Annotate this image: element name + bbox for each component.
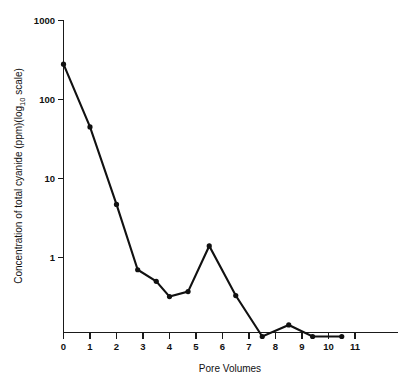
x-tick-label-3: 3 (140, 341, 145, 352)
y-tick-label-1000: 1000 (34, 15, 55, 26)
y-tick-label-10: 10 (44, 173, 55, 184)
x-tick-label-4: 4 (167, 341, 173, 352)
y-axis-title-tail: scale) (13, 68, 24, 97)
y-axis-title-subscript: 10 (18, 98, 27, 106)
y-axis-tick-labels: 1000 100 10 1 (34, 15, 56, 263)
data-point (233, 293, 238, 298)
data-point (167, 294, 172, 299)
line-chart: 1000 100 10 1 0 1 2 3 4 5 (0, 0, 412, 384)
x-tick-label-10: 10 (323, 341, 334, 352)
chart-figure: 1000 100 10 1 0 1 2 3 4 5 (0, 0, 412, 384)
x-tick-label-7: 7 (246, 341, 251, 352)
series-markers-total-cyanide (61, 62, 344, 340)
series-line-total-cyanide (64, 64, 342, 336)
x-tick-label-9: 9 (299, 341, 304, 352)
x-tick-label-2: 2 (114, 341, 119, 352)
data-point (339, 334, 344, 339)
data-point (114, 202, 119, 207)
y-tick-label-100: 100 (39, 94, 55, 105)
data-point (286, 322, 291, 327)
x-tick-label-11: 11 (350, 341, 361, 352)
x-tick-label-8: 8 (273, 341, 278, 352)
x-tick-label-6: 6 (220, 341, 225, 352)
data-point (135, 267, 140, 272)
y-tick-label-1: 1 (50, 252, 56, 263)
x-tick-label-5: 5 (193, 341, 199, 352)
data-point (185, 289, 190, 294)
y-axis-title-main: Concentration of total cyanide (ppm)(log (13, 106, 24, 284)
data-point (207, 243, 212, 248)
data-point (87, 124, 92, 129)
data-point (154, 279, 159, 284)
y-axis-title: Concentration of total cyanide (ppm)(log… (13, 68, 27, 284)
data-point (310, 334, 315, 339)
data-point (61, 62, 66, 67)
x-axis-title: Pore Volumes (199, 363, 261, 374)
x-tick-label-1: 1 (87, 341, 93, 352)
x-tick-label-0: 0 (61, 341, 66, 352)
y-axis-ticks (58, 21, 64, 258)
x-axis-tick-labels: 0 1 2 3 4 5 6 7 8 9 10 11 (61, 341, 361, 352)
data-point (260, 334, 265, 339)
